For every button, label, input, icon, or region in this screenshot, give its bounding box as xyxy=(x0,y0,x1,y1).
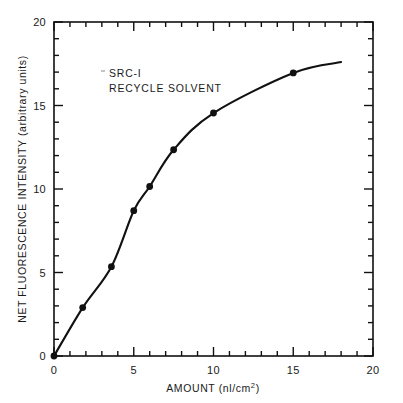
y-tick-label: 20 xyxy=(33,16,46,28)
y-axis-title: NET FLUORESCENCE INTENSITY (arbitrary un… xyxy=(16,55,28,323)
annotation-line-2: RECYCLE SOLVENT xyxy=(109,82,222,94)
y-axis-title-group: NET FLUORESCENCE INTENSITY (arbitrary un… xyxy=(16,55,28,323)
data-series xyxy=(51,62,342,359)
y-tick-label: 5 xyxy=(40,267,46,279)
x-tick-label: 20 xyxy=(367,364,380,376)
series-curve xyxy=(54,62,341,356)
data-point-marker xyxy=(170,146,177,153)
data-point-marker xyxy=(146,183,153,190)
annotation-block: SRC-I RECYCLE SOLVENT xyxy=(101,67,222,94)
x-axis-title: AMOUNT (nl/cm2) xyxy=(166,381,260,394)
axis-tick-labels: 0510152005101520 xyxy=(33,16,379,376)
y-tick-label: 15 xyxy=(33,100,46,112)
figure-container: 0510152005101520 SRC-I RECYCLE SOLVENT A… xyxy=(0,0,403,403)
y-tick-label: 10 xyxy=(33,183,46,195)
x-axis-title-group: AMOUNT (nl/cm2) xyxy=(166,381,260,394)
x-tick-label: 15 xyxy=(287,364,300,376)
annotation-line-1: SRC-I xyxy=(109,67,142,79)
data-point-marker xyxy=(210,110,217,117)
line-chart: 0510152005101520 SRC-I RECYCLE SOLVENT A… xyxy=(0,0,403,403)
data-point-marker xyxy=(51,353,58,360)
data-point-marker xyxy=(108,263,115,270)
axes-frame xyxy=(54,22,373,356)
data-point-marker xyxy=(79,304,86,311)
x-tick-label: 0 xyxy=(51,364,57,376)
x-tick-label: 10 xyxy=(207,364,220,376)
plot-frame xyxy=(54,22,373,356)
x-tick-label: 5 xyxy=(131,364,137,376)
axis-ticks xyxy=(54,22,373,356)
data-point-marker xyxy=(130,207,137,214)
data-point-marker xyxy=(290,70,297,77)
y-tick-label: 0 xyxy=(40,350,46,362)
